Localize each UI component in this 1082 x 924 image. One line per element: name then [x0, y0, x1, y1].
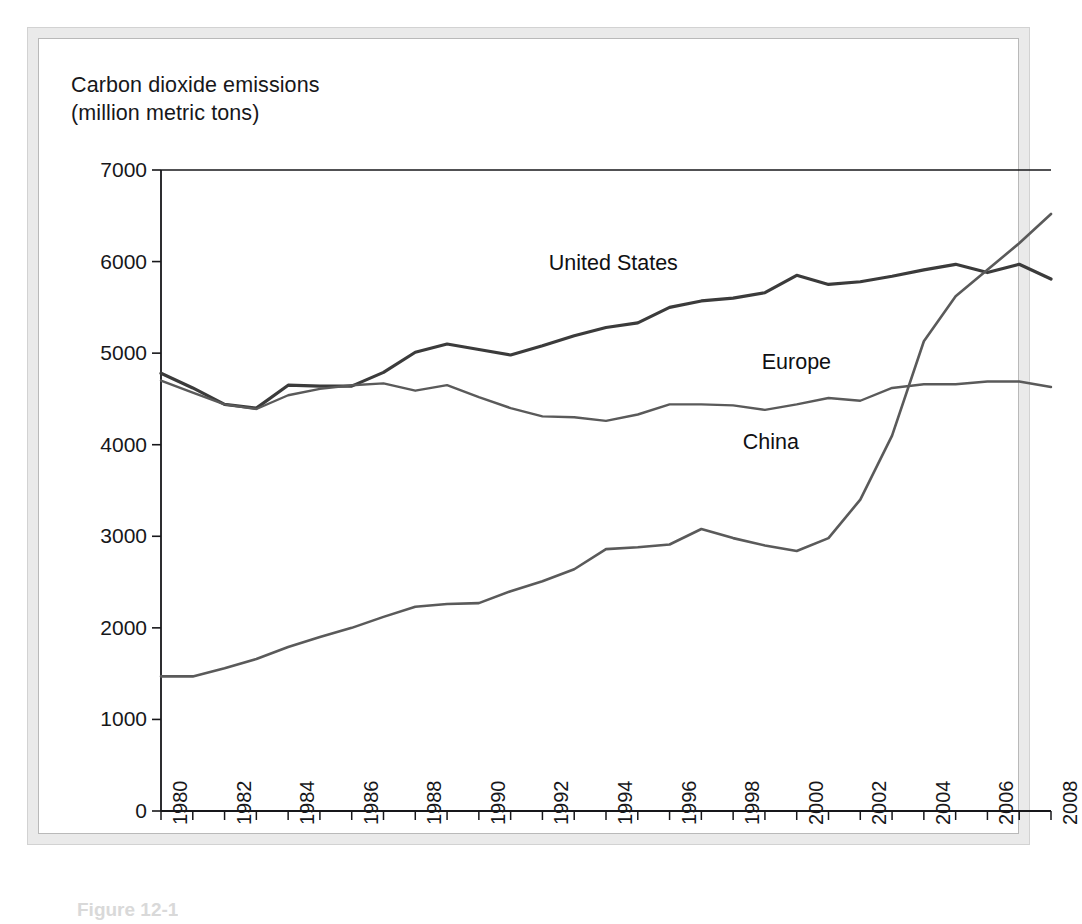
series-label-united-states: United States [549, 251, 678, 276]
plot-area: United StatesEuropeChina [161, 170, 1051, 811]
x-axis-tick-label: 1998 [741, 781, 764, 826]
x-axis-tick-label: 2000 [805, 781, 828, 826]
y-axis-tick-labels: 01000200030004000500060007000 [67, 170, 147, 811]
x-axis-tick-label: 1994 [614, 781, 637, 826]
y-axis-tick-label: 7000 [100, 158, 147, 182]
axis-title: Carbon dioxide emissions (million metric… [71, 71, 320, 127]
series-label-china: China [743, 429, 799, 454]
axis-title-line-2: (million metric tons) [71, 101, 259, 125]
x-axis-tick-label: 2002 [868, 781, 891, 826]
x-axis-tick-label: 1988 [423, 781, 446, 826]
y-axis-tick-label: 4000 [100, 433, 147, 457]
y-axis-tick-label: 3000 [100, 524, 147, 548]
x-axis-tick-label: 2004 [932, 781, 955, 826]
y-axis-tick-label: 5000 [100, 341, 147, 365]
y-axis-tick-label: 0 [135, 799, 147, 823]
figure-inner-panel: Carbon dioxide emissions (million metric… [38, 38, 1019, 834]
x-axis-tick-label: 1986 [360, 781, 383, 826]
y-axis-tick-label: 2000 [100, 616, 147, 640]
series-line-china [161, 214, 1051, 676]
x-axis-tick-labels: 1980198219841986198819901992199419961998… [161, 811, 1051, 906]
x-axis-tick-label: 1992 [550, 781, 573, 826]
axis-title-line-1: Carbon dioxide emissions [71, 73, 320, 97]
x-axis-tick-label: 1996 [678, 781, 701, 826]
figure-frame: Carbon dioxide emissions (million metric… [27, 27, 1030, 845]
series-label-europe: Europe [762, 350, 831, 375]
y-axis-tick-label: 1000 [100, 707, 147, 731]
y-axis-tick-label: 6000 [100, 250, 147, 274]
series-line-united-states [161, 264, 1051, 408]
x-axis-tick-label: 1980 [169, 781, 192, 826]
figure-caption: Figure 12-1 [77, 899, 178, 924]
x-axis-tick-label: 1984 [296, 781, 319, 826]
x-axis-tick-label: 1982 [233, 781, 256, 826]
x-axis-tick-label: 1990 [487, 781, 510, 826]
x-axis-tick-label: 2006 [995, 781, 1018, 826]
x-axis-tick-label: 2008 [1059, 781, 1082, 826]
